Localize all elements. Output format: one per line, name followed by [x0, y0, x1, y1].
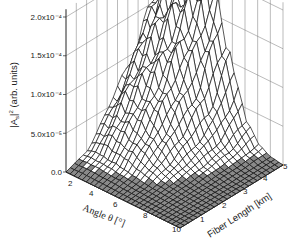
- z-axis-label: |As|2 (arb. units): [8, 62, 20, 128]
- x-tick-2: 2: [68, 179, 73, 188]
- x-tick-6: 6: [113, 200, 118, 209]
- z-tick-labels: 0.0 5.0x10⁻⁵ 1.0x10⁻⁴ 1.5x10⁻⁴ 2.0x10⁻⁴: [31, 13, 63, 177]
- z-tick-1: 5.0x10⁻⁵: [31, 130, 62, 139]
- y-tick-2: 2: [222, 201, 227, 210]
- z-tick-0: 0.0: [51, 168, 63, 177]
- x-tick-4: 4: [89, 189, 94, 198]
- z-tick-2: 1.0x10⁻⁴: [31, 90, 63, 99]
- y-tick-1: 1: [200, 215, 205, 224]
- y-tick-3: 3: [243, 187, 248, 196]
- x-axis-label: Angle θ [°]: [81, 202, 127, 229]
- z-tick-3: 1.5x10⁻⁴: [31, 51, 63, 60]
- y-tick-5: 5: [283, 162, 288, 171]
- wireframe-surface: [66, 0, 283, 228]
- x-tick-8: 8: [143, 211, 148, 220]
- svg-text:|As|2 (arb. units): |As|2 (arb. units): [8, 62, 20, 128]
- y-tick-4: 4: [263, 174, 268, 183]
- surface-plot: 0.0 5.0x10⁻⁵ 1.0x10⁻⁴ 1.5x10⁻⁴ 2.0x10⁻⁴ …: [0, 0, 293, 242]
- z-tick-4: 2.0x10⁻⁴: [31, 13, 63, 22]
- x-tick-10: 10: [172, 225, 181, 234]
